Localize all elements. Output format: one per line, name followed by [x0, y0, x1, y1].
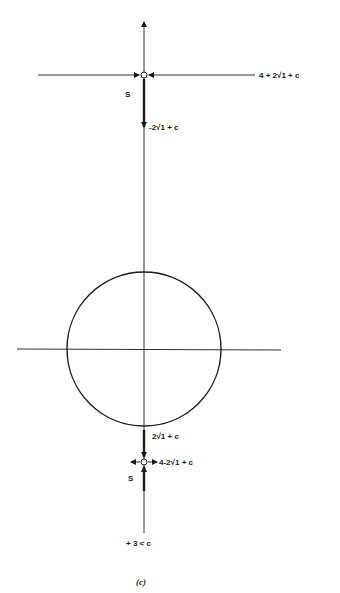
lower-above-label: 2√1 + c	[152, 432, 179, 441]
figure-caption: (c)	[136, 577, 146, 587]
lower-right-label: 4-2√1 + c	[159, 458, 194, 467]
root-locus-diagram: 4 + 2√1 + c -2√1 + c S 2√1 + c 4-2√1 + c…	[0, 0, 340, 593]
lower-s-label: S	[128, 474, 134, 483]
bottom-condition-label: + 3 < c	[126, 539, 151, 548]
upper-below-label: -2√1 + c	[149, 123, 179, 132]
upper-right-label: 4 + 2√1 + c	[259, 71, 300, 80]
upper-point-marker	[141, 72, 147, 78]
upper-s-label: S	[125, 90, 131, 99]
lower-point-marker	[141, 459, 147, 465]
horizontal-axis	[17, 349, 281, 350]
